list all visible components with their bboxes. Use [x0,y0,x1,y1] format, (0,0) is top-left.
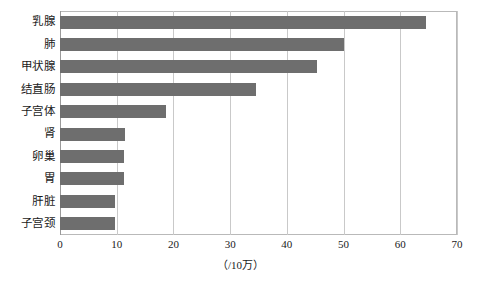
x-tick-50: 50 [338,238,349,250]
y-axis-label-6: 卵巢 [0,145,55,167]
x-tick-0: 0 [57,238,63,250]
bar-row [60,168,457,190]
x-tick-60: 60 [395,238,406,250]
y-axis-label-4: 子宫体 [0,101,55,123]
y-axis-category-labels: 乳腺肺甲状腺结直肠子宫体肾卵巢胃肝脏子宫颈 [0,11,55,235]
bar-row [60,123,457,145]
bars-group [60,11,457,235]
bar-9 [60,217,115,230]
y-axis-label-3: 结直肠 [0,78,55,100]
bar-7 [60,172,124,185]
y-axis-label-0: 乳腺 [0,11,55,33]
bar-row [60,11,457,33]
y-axis-label-7: 胃 [0,168,55,190]
bar-row [60,56,457,78]
bar-row [60,190,457,212]
bar-4 [60,105,166,118]
x-tick-20: 20 [168,238,179,250]
bar-1 [60,38,344,51]
gridline-70 [457,11,458,235]
bar-row [60,145,457,167]
bar-row [60,33,457,55]
bar-row [60,78,457,100]
y-axis-label-9: 子宫颈 [0,213,55,235]
x-tick-70: 70 [452,238,463,250]
y-axis-label-2: 甲状腺 [0,56,55,78]
bar-row [60,213,457,235]
x-axis-tick-labels: 010203040506070 [60,238,457,254]
x-axis-unit-caption: （/10万） [0,256,481,272]
x-tick-30: 30 [225,238,236,250]
bar-0 [60,16,426,29]
y-axis-label-8: 肝脏 [0,190,55,212]
y-axis-label-1: 肺 [0,33,55,55]
bar-3 [60,83,256,96]
y-axis-label-5: 肾 [0,123,55,145]
bar-6 [60,150,124,163]
bar-row [60,101,457,123]
bar-2 [60,60,317,73]
x-tick-10: 10 [111,238,122,250]
bar-5 [60,128,125,141]
x-tick-40: 40 [281,238,292,250]
bar-8 [60,195,115,208]
bar-chart-figure: 乳腺肺甲状腺结直肠子宫体肾卵巢胃肝脏子宫颈 010203040506070 （/… [0,0,481,283]
